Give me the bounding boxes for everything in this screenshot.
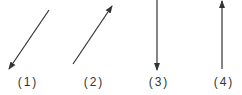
arrow-2-label: (2) (84, 75, 105, 89)
arrow-4-label: (4) (214, 75, 235, 89)
arrow-1-down-left-icon (9, 10, 49, 69)
arrow-2-up-right-icon (73, 6, 112, 64)
arrow-1-label: (1) (18, 75, 39, 89)
arrow-3-label: (3) (149, 75, 170, 89)
